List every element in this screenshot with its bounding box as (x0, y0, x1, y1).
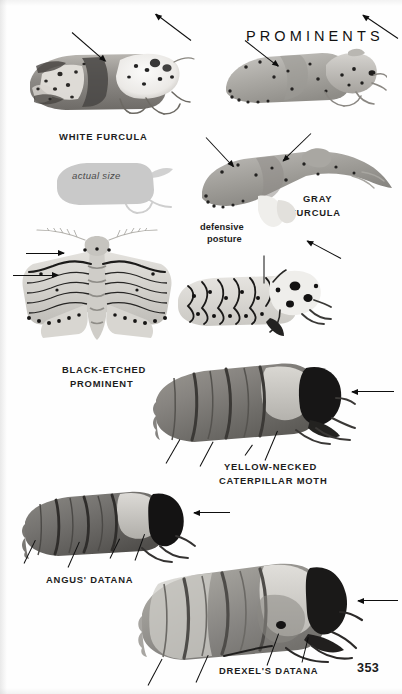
actual-size-label: actual size (72, 170, 121, 181)
specimen-white-furcula (24, 44, 196, 122)
pointer-arrow-black-etched-lateral-thorax (264, 256, 265, 284)
pointer-arrow-drexels-datana-collar (358, 600, 398, 601)
specimen-black-etched-prominent (17, 228, 177, 353)
specimen-gray-furcula (222, 47, 387, 109)
caption-yellow-necked-line2: CATERPILLAR MOTH (219, 475, 327, 487)
actual-size-silhouette (53, 157, 178, 215)
caption-angus-datana: ANGUS' DATANA (46, 574, 133, 586)
pointer-arrow-yellow-necked-collar (352, 391, 394, 392)
caption-yellow-necked-line1: YELLOW-NECKED (224, 461, 317, 473)
book-page: PROMINENTS (0, 0, 402, 694)
specimen-yellow-necked-caterpillar-moth (150, 358, 358, 458)
pointer-arrow-angus-datana-collar (194, 512, 230, 513)
pointer-arrow-black-etched-wing-band (13, 275, 58, 276)
specimen-drexels-datana (136, 562, 368, 672)
pointer-arrow-white-furcula-head (156, 14, 192, 41)
caption-black-etched-line2: PROMINENT (70, 378, 133, 390)
specimen-black-etched-lateral (174, 266, 332, 344)
specimen-angus-datana (20, 488, 196, 568)
caption-black-etched-line1: BLACK-ETCHED (62, 364, 146, 376)
pointer-arrow-black-etched-lateral-head (307, 240, 341, 259)
caption-white-furcula: WHITE FURCULA (59, 131, 148, 143)
pointer-arrow-black-etched-thorax (26, 253, 64, 254)
caption-defensive-posture-line2: posture (207, 234, 242, 246)
page-title: PROMINENTS (246, 28, 384, 44)
